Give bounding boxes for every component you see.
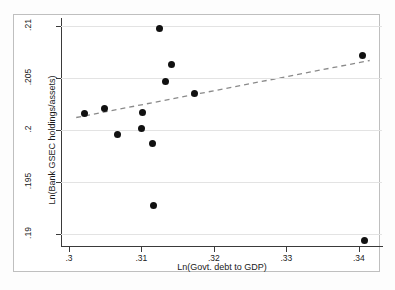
gridline-y <box>61 182 382 183</box>
x-tick-label: .31 <box>136 253 148 263</box>
y-tick-label: .205 <box>23 62 33 92</box>
plot-area: .19.195.2.205.21 <box>61 18 382 246</box>
gridline-y <box>61 78 382 79</box>
fit-line-segment <box>76 60 369 117</box>
x-tick <box>359 247 360 252</box>
x-axis-line <box>61 246 383 247</box>
x-tick-label: .32 <box>208 253 220 263</box>
y-tick <box>56 26 61 27</box>
x-tick <box>69 247 70 252</box>
data-point <box>168 61 175 68</box>
x-tick <box>286 247 287 252</box>
x-tick-label: .3 <box>65 253 72 263</box>
data-point <box>139 109 146 116</box>
y-tick <box>56 130 61 131</box>
y-tick <box>56 234 61 235</box>
y-tick-label: .19 <box>23 218 33 248</box>
y-tick-label: .195 <box>23 166 33 196</box>
y-tick <box>56 78 61 79</box>
chart-container: Ln(Bank GSEC holdings/assets) .19.195.2.… <box>0 0 395 290</box>
data-point <box>191 90 198 97</box>
gridline-y <box>61 130 382 131</box>
data-point <box>361 237 368 244</box>
data-point <box>81 110 88 117</box>
gridline-y <box>61 234 382 235</box>
data-point <box>359 52 366 59</box>
fit-line <box>61 18 382 246</box>
data-point <box>114 131 121 138</box>
y-tick-label: .21 <box>23 10 33 40</box>
data-point <box>162 78 169 85</box>
x-tick <box>141 247 142 252</box>
x-tick <box>214 247 215 252</box>
data-point <box>138 125 145 132</box>
data-point <box>101 105 108 112</box>
x-tick-label: .33 <box>280 253 292 263</box>
y-axis-title: Ln(Bank GSEC holdings/assets) <box>47 25 57 255</box>
x-tick-label: .34 <box>353 253 365 263</box>
data-point <box>156 25 163 32</box>
data-point <box>149 140 156 147</box>
y-tick <box>56 182 61 183</box>
data-point <box>150 202 157 209</box>
y-tick-label: .2 <box>23 114 33 144</box>
x-axis-title: Ln(Govt. debt to GDP) <box>61 262 383 272</box>
gridline-y <box>61 26 382 27</box>
